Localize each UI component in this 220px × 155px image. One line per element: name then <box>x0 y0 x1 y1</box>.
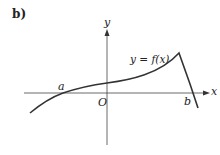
root-a-label: a <box>58 80 65 93</box>
x-axis-label: x <box>211 85 217 98</box>
part-label: b) <box>12 7 26 21</box>
root-b-label: b <box>184 95 191 108</box>
y-axis-label: y <box>104 16 110 29</box>
function-curve <box>30 53 198 113</box>
x-axis-arrow-icon <box>203 91 210 96</box>
origin-label: O <box>98 96 107 109</box>
curve-label: y = f(x) <box>130 53 169 65</box>
y-axis-arrow-icon <box>105 29 110 36</box>
